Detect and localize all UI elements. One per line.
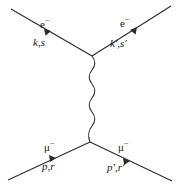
- outgoing-muon-line: [90, 142, 172, 181]
- outgoing-muon-label: μ−: [118, 140, 128, 153]
- outgoing-electron-charge-sup: −: [125, 15, 130, 24]
- feynman-diagram-canvas: e− k,s e− k′,s′ μ− p,r μ− p′,r′: [0, 0, 178, 187]
- incoming-electron-label: e−: [40, 17, 49, 30]
- photon-propagator-wavy-line: [89, 56, 95, 142]
- incoming-electron-charge-sup: −: [45, 16, 50, 25]
- incoming-electron-arrow-icon: [44, 29, 51, 36]
- incoming-muon-charge-sup: −: [50, 139, 55, 148]
- outgoing-muon-momentum-label: p′,r′: [107, 162, 124, 173]
- outgoing-muon-charge-sup: −: [124, 139, 129, 148]
- outgoing-electron-label: e−: [120, 16, 129, 29]
- outgoing-electron-momentum-label: k′,s′: [110, 38, 127, 49]
- incoming-muon-label: μ−: [44, 140, 54, 153]
- incoming-muon-momentum-label: p,r: [42, 161, 55, 172]
- incoming-electron-line: [11, 9, 92, 56]
- outgoing-electron-arrow-icon: [130, 27, 137, 34]
- feynman-diagram-svg: [0, 0, 178, 187]
- incoming-electron-momentum-label: k,s: [33, 37, 45, 48]
